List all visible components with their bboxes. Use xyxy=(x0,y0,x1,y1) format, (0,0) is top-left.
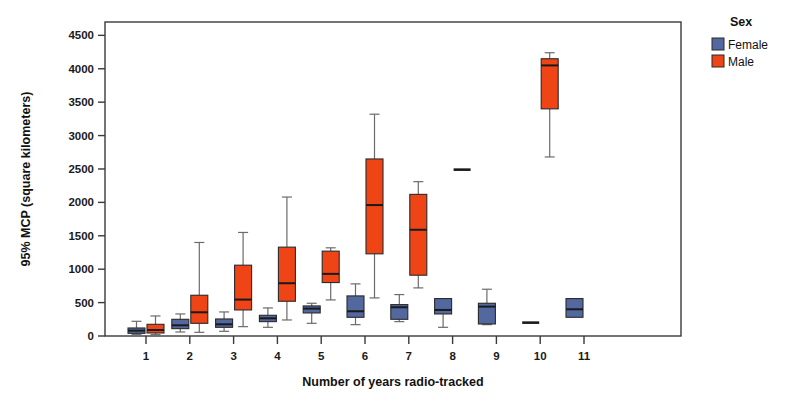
boxplot-chart: 05001000150020002500300035004000450095% … xyxy=(0,0,807,407)
box-male-year-7 xyxy=(410,182,427,288)
x-tick-label-5: 5 xyxy=(318,350,325,362)
x-tick-label-3: 3 xyxy=(230,350,236,362)
x-tick-label-10: 10 xyxy=(534,350,547,362)
y-axis-title: 95% MCP (square kilometers) xyxy=(19,92,33,267)
box-body xyxy=(410,194,427,275)
x-tick-label-11: 11 xyxy=(578,350,591,362)
chart-root: 05001000150020002500300035004000450095% … xyxy=(0,0,807,407)
y-tick-label-500: 500 xyxy=(75,297,94,309)
x-tick-label-2: 2 xyxy=(187,350,193,362)
y-tick-label-2500: 2500 xyxy=(68,163,94,175)
box-body xyxy=(235,265,252,310)
x-tick-label-9: 9 xyxy=(493,350,499,362)
box-body xyxy=(147,324,164,333)
y-tick-label-3500: 3500 xyxy=(68,96,94,108)
x-tick-label-8: 8 xyxy=(449,350,456,362)
x-tick-label-7: 7 xyxy=(406,350,412,362)
x-tick-label-4: 4 xyxy=(274,350,281,362)
box-body xyxy=(366,159,383,254)
plot-area-frame xyxy=(105,22,681,336)
box-body xyxy=(216,319,233,327)
box-body xyxy=(347,296,364,317)
legend-swatch-male xyxy=(712,55,724,67)
y-tick-label-4500: 4500 xyxy=(68,29,94,41)
legend-title: Sex xyxy=(730,15,752,29)
box-body xyxy=(322,251,339,282)
x-tick-label-1: 1 xyxy=(143,350,150,362)
legend-label-female: Female xyxy=(728,38,768,52)
box-body xyxy=(191,295,208,323)
box-body xyxy=(435,299,452,314)
box-body xyxy=(172,319,189,328)
y-tick-label-2000: 2000 xyxy=(68,196,94,208)
box-female-year-11 xyxy=(566,299,583,318)
y-tick-label-1500: 1500 xyxy=(68,230,94,242)
y-tick-label-4000: 4000 xyxy=(68,63,94,75)
legend-swatch-female xyxy=(712,38,724,50)
x-axis-title: Number of years radio-tracked xyxy=(302,375,483,389)
y-tick-label-0: 0 xyxy=(88,330,94,342)
x-tick-label-6: 6 xyxy=(362,350,368,362)
box-body xyxy=(278,247,295,301)
legend-label-male: Male xyxy=(728,55,754,69)
box-body xyxy=(566,299,583,318)
y-tick-label-1000: 1000 xyxy=(68,263,94,275)
y-tick-label-3000: 3000 xyxy=(68,130,94,142)
